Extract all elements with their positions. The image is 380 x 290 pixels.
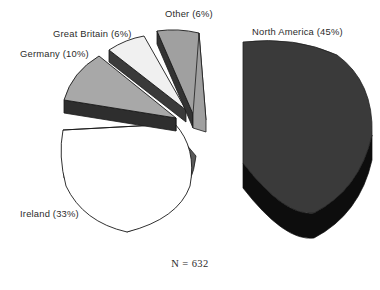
pie-chart-graphic (0, 0, 380, 290)
slice-label-germany: Germany (10%) (20, 48, 89, 59)
sample-size-caption: N = 632 (0, 258, 380, 269)
slice-label-ireland: Ireland (33%) (20, 208, 79, 219)
pie-chart-figure: Germany (10%) Great Britain (6%) Other (… (0, 0, 380, 290)
pie-slice-ireland (61, 124, 196, 232)
slice-label-other: Other (6%) (165, 8, 213, 19)
pie-slice-north-america (243, 41, 372, 239)
slice-label-north-america: North America (45%) (252, 26, 343, 37)
slice-label-great-britain: Great Britain (6%) (53, 28, 132, 39)
